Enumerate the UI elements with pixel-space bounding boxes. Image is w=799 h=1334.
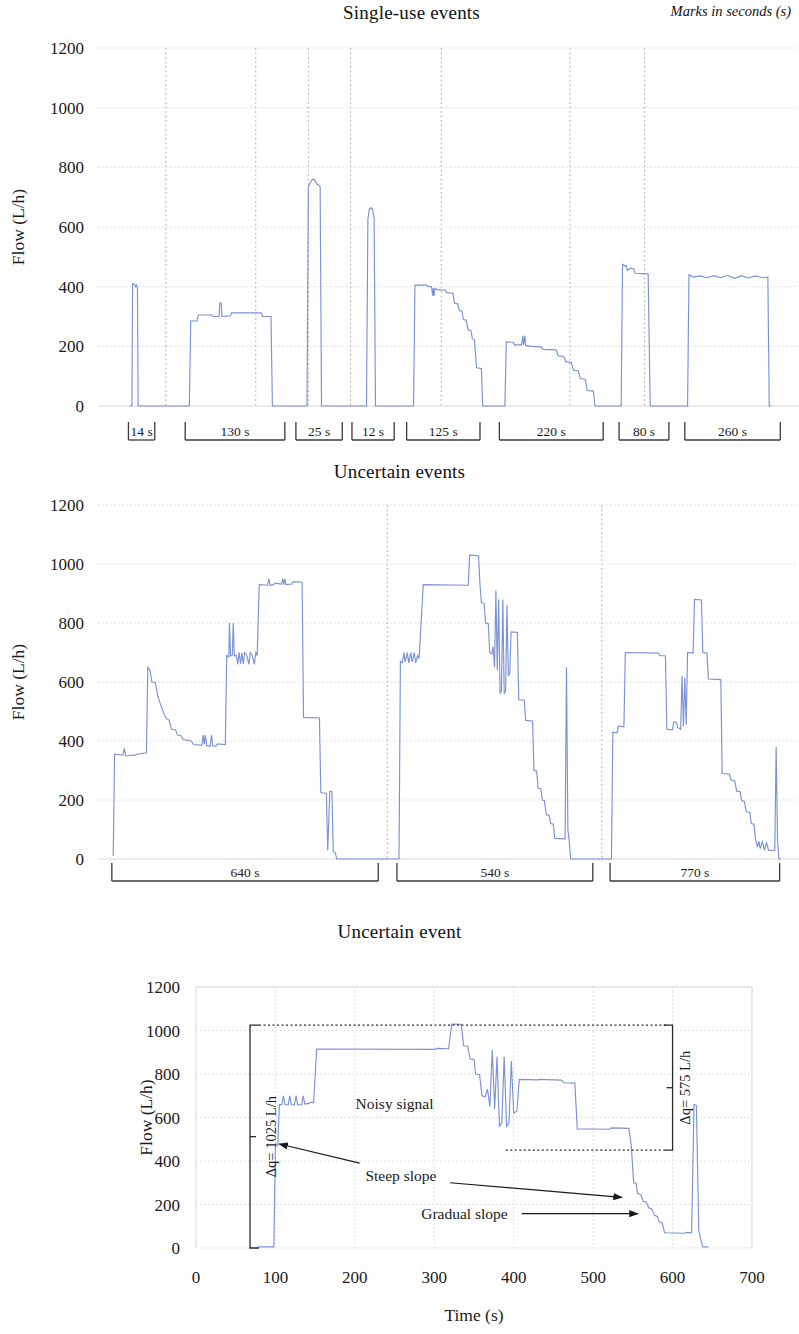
x-tick-label-100: 100: [263, 1268, 289, 1287]
delta-bracket-right: Δq= 575 L/h: [664, 1025, 693, 1150]
duration-mark-label: 540 s: [480, 865, 509, 880]
annotation-gradual-slope: Gradual slope: [421, 1205, 508, 1222]
duration-mark-0: 14 s: [128, 422, 154, 440]
x-tick-label-500: 500: [580, 1268, 606, 1287]
duration-mark-label: 640 s: [231, 865, 260, 880]
annotation-noisy-signal: Noisy signal: [356, 1095, 434, 1112]
x-tick-label-600: 600: [660, 1268, 686, 1287]
y-axis-title: Flow (L/h): [136, 1079, 156, 1155]
y-tick-label-1000: 1000: [50, 555, 84, 574]
duration-mark-label: 14 s: [131, 424, 153, 439]
duration-mark-7: 260 s: [685, 422, 780, 440]
x-tick-label-400: 400: [501, 1268, 527, 1287]
panel-1-svg: 020040060080010001200Flow (L/h)14 s130 s…: [0, 0, 799, 455]
panel-3-svg: 0200400600800100012000100200300400500600…: [0, 915, 799, 1334]
y-tick-label-400: 400: [155, 1152, 181, 1171]
y-tick-label-0: 0: [76, 850, 85, 869]
y-tick-label-400: 400: [59, 278, 85, 297]
duration-mark-1: 130 s: [185, 422, 285, 440]
y-tick-label-600: 600: [155, 1109, 181, 1128]
annotation-steep-slope: Steep slope: [365, 1167, 436, 1184]
y-tick-label-1200: 1200: [50, 496, 84, 515]
y-tick-label-1000: 1000: [146, 1022, 180, 1041]
flow-series-line: [113, 555, 781, 859]
duration-mark-1: 540 s: [397, 863, 593, 881]
panel-uncertain-events: Uncertain events 020040060080010001200Fl…: [0, 455, 799, 915]
duration-mark-label: 770 s: [680, 865, 709, 880]
duration-mark-label: 125 s: [429, 424, 458, 439]
y-tick-label-1200: 1200: [50, 39, 84, 58]
annotation-arrow-steep-lower: [450, 1183, 622, 1198]
y-axis-title: Flow (L/h): [8, 644, 28, 720]
duration-mark-2: 25 s: [296, 422, 342, 440]
x-tick-label-700: 700: [739, 1268, 765, 1287]
y-tick-label-200: 200: [59, 337, 85, 356]
panel-2-svg: 020040060080010001200Flow (L/h)640 s540 …: [0, 455, 799, 915]
flow-events-figure: Single-use events Marks in seconds (s) 0…: [0, 0, 799, 1334]
y-tick-label-800: 800: [59, 158, 85, 177]
duration-mark-2: 770 s: [610, 863, 780, 881]
panel-2-plot: 020040060080010001200Flow (L/h)640 s540 …: [0, 455, 799, 915]
duration-mark-label: 260 s: [718, 424, 747, 439]
duration-mark-label: 12 s: [362, 424, 384, 439]
x-tick-label-0: 0: [192, 1268, 201, 1287]
duration-mark-label: 220 s: [537, 424, 566, 439]
y-tick-label-600: 600: [59, 218, 85, 237]
panel-1-plot: 020040060080010001200Flow (L/h)14 s130 s…: [0, 0, 799, 455]
y-tick-label-800: 800: [155, 1065, 181, 1084]
duration-mark-5: 220 s: [499, 422, 603, 440]
y-tick-label-1200: 1200: [146, 978, 180, 997]
y-tick-label-600: 600: [59, 673, 85, 692]
x-axis-title: Time (s): [444, 1305, 503, 1325]
duration-mark-6: 80 s: [619, 422, 669, 440]
duration-mark-label: 80 s: [633, 424, 655, 439]
duration-mark-label: 25 s: [308, 424, 330, 439]
x-tick-label-300: 300: [422, 1268, 448, 1287]
panel-uncertain-event: Uncertain event 020040060080010001200010…: [0, 915, 799, 1334]
flow-series-line: [130, 179, 771, 406]
y-tick-label-1000: 1000: [50, 99, 84, 118]
y-tick-label-200: 200: [155, 1196, 181, 1215]
duration-mark-3: 12 s: [352, 422, 394, 440]
duration-mark-4: 125 s: [407, 422, 480, 440]
duration-mark-0: 640 s: [112, 863, 378, 881]
duration-mark-label: 130 s: [221, 424, 250, 439]
y-tick-label-0: 0: [172, 1239, 181, 1258]
y-tick-label-400: 400: [59, 732, 85, 751]
annotation-arrow-steep-upper: [279, 1144, 359, 1163]
delta-label-right: Δq= 575 L/h: [677, 1050, 693, 1125]
delta-label-left: Δq= 1025 L/h: [263, 1095, 279, 1177]
y-axis-title: Flow (L/h): [8, 189, 28, 265]
panel-3-plot: 0200400600800100012000100200300400500600…: [0, 915, 799, 1334]
y-tick-label-0: 0: [76, 397, 85, 416]
panel-single-use-events: Single-use events Marks in seconds (s) 0…: [0, 0, 799, 455]
y-tick-label-200: 200: [59, 791, 85, 810]
y-tick-label-800: 800: [59, 614, 85, 633]
x-tick-label-200: 200: [342, 1268, 368, 1287]
